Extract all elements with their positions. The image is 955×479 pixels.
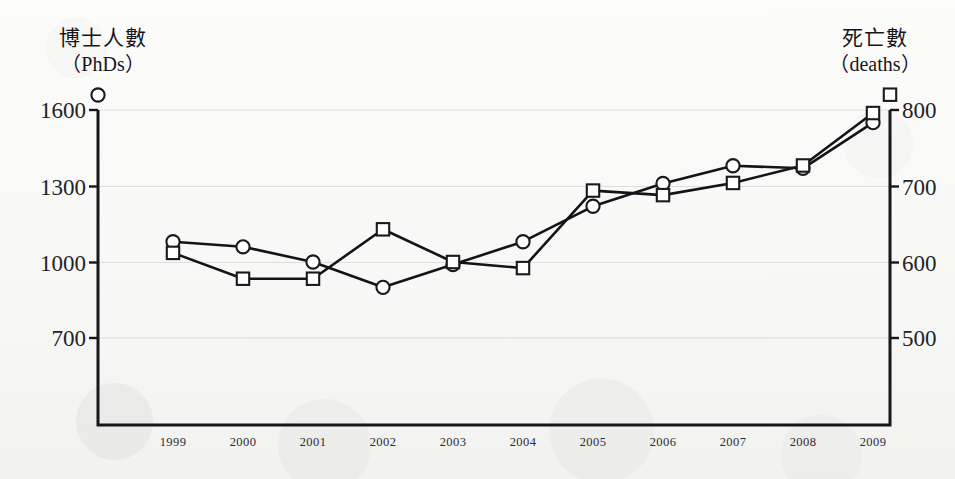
data-point-square bbox=[237, 273, 249, 285]
legend-square-marker bbox=[884, 89, 896, 101]
data-point-square bbox=[587, 184, 599, 196]
legend-circle-marker bbox=[91, 88, 104, 101]
data-point-circle bbox=[306, 255, 319, 268]
data-point-square bbox=[517, 262, 529, 274]
data-point-square bbox=[377, 223, 389, 235]
legend-markers bbox=[91, 88, 896, 101]
dual-axis-line-chart: 博士人數 （PhDs） 死亡數 （deaths） 1600 1300 1000 … bbox=[0, 0, 955, 479]
data-point-square bbox=[447, 256, 459, 268]
data-point-circle bbox=[586, 200, 599, 213]
data-point-circle bbox=[726, 159, 739, 172]
data-point-square bbox=[797, 159, 809, 171]
data-point-square bbox=[727, 177, 739, 189]
data-point-square bbox=[167, 247, 179, 259]
data-point-circle bbox=[516, 235, 529, 248]
data-point-square bbox=[867, 107, 879, 119]
plot-area bbox=[0, 0, 955, 479]
data-point-square bbox=[657, 189, 669, 201]
gridlines bbox=[98, 110, 890, 338]
data-point-circle bbox=[376, 281, 389, 294]
data-point-circle bbox=[236, 240, 249, 253]
data-point-square bbox=[307, 273, 319, 285]
data-series-layer bbox=[166, 107, 879, 294]
